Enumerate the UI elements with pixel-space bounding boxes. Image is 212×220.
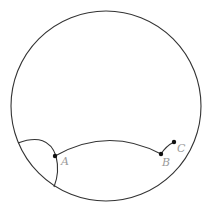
geodesic-through-a bbox=[18, 140, 58, 187]
label-a: A bbox=[60, 155, 69, 168]
label-c: C bbox=[177, 142, 186, 155]
point-a bbox=[53, 154, 57, 158]
label-b: B bbox=[161, 156, 170, 169]
disk-boundary bbox=[11, 11, 201, 201]
segment-b-c bbox=[161, 142, 174, 154]
point-c bbox=[172, 140, 176, 144]
poincare-disk-diagram: A B C bbox=[0, 0, 212, 220]
arc-a-b bbox=[55, 140, 161, 156]
